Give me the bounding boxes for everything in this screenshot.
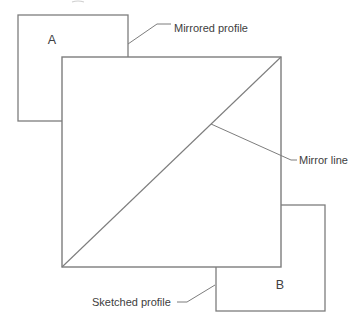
square-b-label: B <box>276 278 284 292</box>
diagram-canvas: A B Mirrored profile Mirror line Sketche… <box>0 0 360 328</box>
stray-scan-mark <box>72 1 84 2</box>
square-a-label: A <box>48 33 57 47</box>
mirrored-profile-label: Mirrored profile <box>174 22 248 34</box>
mirrored-profile-leader-line <box>128 24 171 44</box>
mirror-line-label: Mirror line <box>299 154 348 166</box>
sketched-profile-leader-line <box>177 285 215 302</box>
mirror-sketch-diagram: A B Mirrored profile Mirror line Sketche… <box>0 0 360 328</box>
sketched-profile-label: Sketched profile <box>92 296 171 308</box>
